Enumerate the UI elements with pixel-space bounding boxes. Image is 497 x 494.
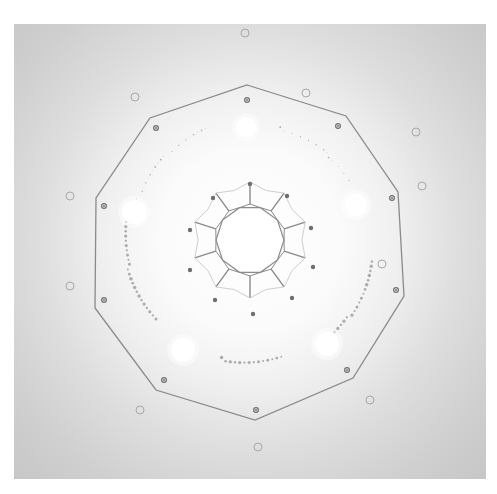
- glyph-mark: [338, 166, 339, 167]
- glyph-mark: [201, 130, 203, 132]
- glyph-mark: [157, 163, 158, 164]
- glyph-mark: [146, 307, 148, 309]
- outer-cell-edge: [216, 287, 234, 290]
- outer-cell-edge: [234, 182, 250, 191]
- glyph-mark: [149, 174, 151, 176]
- glyph-mark: [327, 152, 328, 153]
- outer-ring: [302, 89, 310, 97]
- outer-ring: [378, 260, 386, 268]
- glyph-mark: [127, 259, 129, 261]
- radial-spoke: [284, 222, 305, 229]
- vertex-dot-core: [255, 409, 257, 411]
- vertex-dot-core: [391, 197, 393, 199]
- glyph-mark: [154, 166, 156, 168]
- glyph-mark: [243, 361, 245, 363]
- glyph-mark: [125, 230, 127, 232]
- glyph-mark: [358, 302, 360, 304]
- glyph-mark: [280, 356, 282, 358]
- outer-ring: [136, 406, 144, 414]
- outer-cell-edge: [250, 182, 266, 191]
- outer-cell-edge: [195, 222, 198, 240]
- glyph-mark: [125, 244, 128, 247]
- glyph-mark: [342, 320, 345, 323]
- inner-dot: [213, 298, 217, 302]
- inner-dot: [290, 296, 294, 300]
- glyph-mark: [331, 160, 332, 161]
- radial-spoke: [271, 269, 284, 287]
- outer-cell-edge: [266, 191, 284, 194]
- outer-cell-edge: [266, 287, 284, 290]
- outer-cell-edge: [302, 240, 305, 258]
- glyph-mark: [143, 302, 146, 305]
- inner-dot: [309, 226, 313, 230]
- radial-spoke: [195, 222, 216, 229]
- glyph-mark: [229, 360, 232, 363]
- glyph-mark: [356, 305, 359, 308]
- glyph-mark: [131, 282, 134, 285]
- glyph-mark: [163, 156, 164, 157]
- glyph-mark: [171, 151, 172, 152]
- glyph-mark: [140, 299, 142, 301]
- glyph-mark: [292, 133, 293, 134]
- glyph-mark: [271, 358, 273, 360]
- inner-dot: [211, 196, 215, 200]
- glyph-mark: [279, 126, 281, 128]
- inner-dot: [285, 194, 289, 198]
- glyph-mark: [126, 249, 128, 251]
- glyph-mark: [262, 360, 264, 362]
- glyph-mark: [370, 265, 373, 268]
- bright-spot: [315, 332, 339, 356]
- vertex-dot-core: [103, 205, 105, 207]
- glyph-mark: [152, 314, 154, 316]
- glyph-mark: [348, 180, 349, 181]
- glyph-mark: [128, 273, 131, 276]
- glyph-mark: [148, 178, 149, 179]
- glyph-mark: [142, 190, 143, 191]
- glyph-mark: [371, 260, 373, 262]
- glyph-mark: [283, 131, 284, 132]
- glyph-mark: [365, 283, 369, 287]
- glyph-mark: [197, 132, 198, 133]
- diffraction-pattern: [0, 0, 497, 494]
- vertex-dot-core: [163, 379, 165, 381]
- central-white-disk: [220, 210, 280, 270]
- glyph-mark: [178, 145, 179, 146]
- glyph-mark: [128, 263, 131, 266]
- inner-dot: [248, 182, 252, 186]
- glyph-mark: [193, 134, 194, 135]
- outer-cell-edge: [250, 289, 266, 298]
- glyph-mark: [367, 279, 370, 282]
- glyph-mark: [364, 288, 367, 291]
- outer-ring: [366, 396, 374, 404]
- outer-ring: [131, 93, 139, 101]
- glyph-mark: [133, 286, 136, 289]
- glyph-mark: [154, 317, 157, 320]
- glyph-mark: [323, 149, 325, 151]
- radial-spoke: [216, 269, 229, 287]
- glyph-mark: [124, 234, 127, 237]
- outer-cell-edge: [234, 289, 250, 298]
- outer-ring: [418, 182, 426, 190]
- glyph-mark: [266, 359, 269, 362]
- glyph-mark: [126, 254, 129, 257]
- vertex-dot-core: [395, 289, 397, 291]
- glyph-mark: [224, 360, 227, 363]
- glyph-mark: [129, 277, 133, 281]
- inner-dot: [251, 312, 255, 316]
- inner-dot: [188, 228, 192, 232]
- bright-spot: [345, 194, 367, 216]
- glyph-mark: [328, 157, 330, 159]
- glyph-mark: [248, 361, 251, 364]
- glyph-mark: [346, 316, 348, 318]
- outer-cell-edge: [195, 240, 198, 258]
- outer-cell-edge: [208, 193, 216, 209]
- outer-cell-edge: [195, 209, 208, 222]
- glyph-mark: [353, 310, 355, 312]
- glyph-mark: [220, 356, 223, 359]
- glyph-mark: [350, 314, 353, 317]
- glyph-mark: [160, 159, 162, 161]
- outer-ring: [254, 443, 262, 451]
- outer-cell-edge: [292, 209, 305, 222]
- vertex-dot-core: [246, 99, 248, 101]
- vertex-dot-core: [346, 369, 348, 371]
